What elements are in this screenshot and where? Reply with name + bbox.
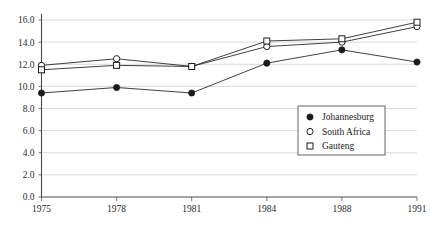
chart-legend: JohannesburgSouth AfricaGauteng [298, 106, 385, 155]
data-point-marker [39, 67, 45, 73]
data-series [38, 19, 420, 96]
y-tick-label: 12.0 [18, 60, 35, 70]
x-tick-label: 1978 [107, 204, 126, 214]
x-tick-label: 1988 [332, 204, 351, 214]
data-point-marker [264, 60, 270, 66]
y-tick-label: 4.0 [23, 148, 35, 158]
legend-item-label: Gauteng [322, 141, 354, 151]
data-point-marker [114, 84, 120, 90]
series-gauteng [39, 19, 421, 73]
data-point-marker [339, 47, 345, 53]
y-axis-tick-labels: 0.02.04.06.08.010.012.014.016.0 [18, 15, 42, 202]
x-axis-tick-labels: 197519781981198419881991 [32, 197, 427, 214]
y-tick-label: 16.0 [18, 15, 35, 25]
y-tick-label: 6.0 [23, 126, 35, 136]
data-point-marker [307, 114, 313, 120]
data-point-marker [114, 56, 120, 62]
y-tick-label: 8.0 [23, 104, 35, 114]
axis-lines [42, 14, 418, 197]
x-tick-label: 1981 [182, 204, 201, 214]
y-tick-label: 14.0 [18, 38, 35, 48]
series-line [42, 27, 418, 67]
data-point-marker [189, 63, 195, 69]
data-point-marker [307, 128, 313, 134]
chart-figure: 0.02.04.06.08.010.012.014.016.0 19751978… [0, 0, 431, 231]
y-tick-label: 10.0 [18, 82, 35, 92]
x-tick-label: 1991 [408, 204, 427, 214]
y-tick-label: 2.0 [23, 170, 35, 180]
y-tick-label: 0.0 [23, 192, 35, 202]
x-tick-label: 1975 [32, 204, 51, 214]
series-south-africa [38, 24, 420, 70]
data-point-marker [264, 38, 270, 44]
data-point-marker [339, 36, 345, 42]
x-tick-label: 1984 [257, 204, 276, 214]
legend-item-label: South Africa [322, 127, 371, 137]
data-point-marker [38, 90, 44, 96]
data-point-marker [414, 59, 420, 65]
data-point-marker [414, 19, 420, 25]
series-line [42, 22, 418, 70]
legend-item-label: Johannesburg [322, 112, 374, 122]
data-point-marker [114, 62, 120, 68]
data-point-marker [307, 143, 313, 149]
axes [42, 14, 418, 197]
line-chart: 0.02.04.06.08.010.012.014.016.0 19751978… [0, 0, 431, 231]
data-point-marker [189, 90, 195, 96]
